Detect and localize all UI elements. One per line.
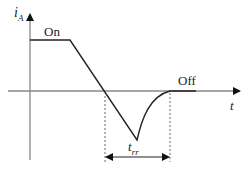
y-axis-label: iA (14, 6, 23, 23)
recovery-time-label-subscript: rr (132, 147, 139, 157)
recovery-time-label: trr (128, 140, 139, 157)
y-axis-label-subscript: A (18, 13, 24, 23)
state-on-label: On (44, 25, 60, 38)
x-axis-label: t (230, 99, 234, 112)
state-off-label: Off (178, 74, 196, 87)
current-waveform (30, 40, 196, 140)
waveform-diagram (0, 0, 249, 172)
